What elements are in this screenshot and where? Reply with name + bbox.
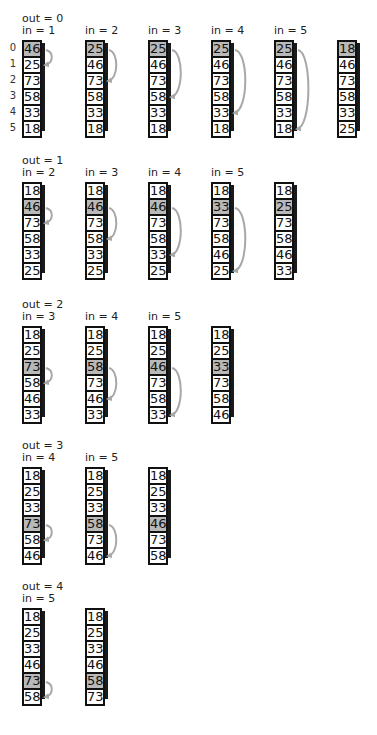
array-cell: 25: [337, 120, 357, 138]
array-column: 184673583325: [85, 182, 105, 280]
array-cell: 58: [22, 688, 42, 706]
step-in-label: in = 4: [148, 167, 181, 178]
step-in-label: in = 2: [22, 167, 55, 178]
step-in-label: in = 1: [22, 25, 55, 36]
array-column: 184673583325: [337, 40, 357, 138]
index-label: 1: [8, 56, 18, 72]
array-cell: 18: [22, 120, 42, 138]
swap-arrows-layer: [0, 0, 377, 735]
swap-arrow-icon: [108, 50, 116, 81]
step-in-label: in = 3: [148, 25, 181, 36]
array-column: 254673583318: [211, 40, 231, 138]
array-cell: 33: [22, 406, 42, 424]
swap-arrow-icon: [45, 368, 52, 383]
array-column: 182533467358: [148, 467, 168, 565]
swap-arrow-icon: [234, 50, 245, 113]
array-column: 184673583325: [148, 182, 168, 280]
index-label: 3: [8, 88, 18, 104]
swap-arrow-icon: [108, 208, 116, 239]
array-cell: 33: [274, 262, 294, 280]
array-cell: 25: [85, 262, 105, 280]
array-column: 182558734633: [85, 326, 105, 424]
array-column: 182573584633: [22, 326, 42, 424]
array-column: 182533467358: [22, 608, 42, 706]
index-label: 2: [8, 72, 18, 88]
array-cell: 46: [85, 547, 105, 565]
array-cell: 46: [211, 406, 231, 424]
step-in-label: in = 5: [85, 452, 118, 463]
array-cell: 25: [22, 262, 42, 280]
array-column: 182533735846: [22, 467, 42, 565]
array-column: 254673583318: [148, 40, 168, 138]
array-cell: 58: [148, 547, 168, 565]
index-label: 5: [8, 120, 18, 136]
pass-out-label: out = 1: [22, 155, 63, 166]
step-in-label: in = 5: [148, 311, 181, 322]
array-column: 254673583318: [274, 40, 294, 138]
swap-arrow-icon: [108, 368, 116, 399]
pass-out-label: out = 4: [22, 581, 63, 592]
step-in-label: in = 5: [22, 593, 55, 604]
step-in-label: in = 4: [211, 25, 244, 36]
swap-arrow-icon: [171, 208, 181, 255]
swap-arrow-icon: [171, 50, 181, 97]
array-cell: 33: [148, 406, 168, 424]
array-cell: 46: [22, 547, 42, 565]
pass-out-label: out = 0: [22, 13, 63, 24]
swap-arrow-icon: [234, 208, 245, 271]
array-cell: 33: [85, 406, 105, 424]
step-in-label: in = 3: [85, 167, 118, 178]
array-cell: 18: [85, 120, 105, 138]
swap-arrow-icon: [45, 525, 52, 540]
array-column: 182546735833: [148, 326, 168, 424]
array-cell: 25: [148, 262, 168, 280]
swap-arrow-icon: [45, 208, 52, 223]
step-in-label: in = 5: [211, 167, 244, 178]
array-cell: 18: [274, 120, 294, 138]
swap-arrow-icon: [297, 50, 308, 129]
array-column: 183373584625: [211, 182, 231, 280]
index-label: 4: [8, 104, 18, 120]
pass-out-label: out = 2: [22, 299, 63, 310]
pass-out-label: out = 3: [22, 440, 63, 451]
step-in-label: in = 4: [22, 452, 55, 463]
selection-sort-diagram: out = 0in = 1462573583318in = 2254673583…: [0, 0, 377, 735]
step-in-label: in = 5: [274, 25, 307, 36]
array-cell: 18: [148, 120, 168, 138]
swap-arrow-icon: [171, 368, 181, 415]
swap-arrow-icon: [45, 50, 52, 65]
array-cell: 25: [211, 262, 231, 280]
step-in-label: in = 3: [22, 311, 55, 322]
array-column: 182533735846: [211, 326, 231, 424]
array-column: 182573584633: [274, 182, 294, 280]
array-cell: 73: [85, 688, 105, 706]
swap-arrow-icon: [108, 525, 116, 556]
array-cell: 18: [211, 120, 231, 138]
step-in-label: in = 4: [85, 311, 118, 322]
array-column: 462573583318: [22, 40, 42, 138]
array-column: 254673583318: [85, 40, 105, 138]
step-in-label: in = 2: [85, 25, 118, 36]
swap-arrow-icon: [45, 682, 52, 697]
array-column: 182533465873: [85, 608, 105, 706]
array-column: 182533587346: [85, 467, 105, 565]
index-label: 0: [8, 40, 18, 56]
array-column: 184673583325: [22, 182, 42, 280]
